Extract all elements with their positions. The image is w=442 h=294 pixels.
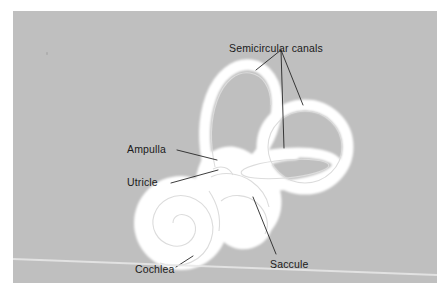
leader-semicircular-canals-right [281,50,303,105]
label-utricle: Utricle [127,177,158,188]
labyrinth-structure-group [134,65,348,270]
label-cochlea: Cochlea [135,264,175,275]
label-ampulla: Ampulla [127,144,166,155]
scan-streak-artifact [13,259,437,275]
lateral-canal-inner-edge [268,111,342,183]
label-semicircular-canals: Semicircular canals [229,43,323,54]
inner-ear-diagram [13,11,437,283]
plate-speck-artifact [46,52,48,55]
label-saccule: Saccule [270,259,308,270]
lateral-semicircular-canal [262,105,348,189]
anatomy-figure-plate: Semicircular canals Ampulla Utricle Coch… [13,11,437,283]
figure-page: Semicircular canals Ampulla Utricle Coch… [0,0,442,294]
